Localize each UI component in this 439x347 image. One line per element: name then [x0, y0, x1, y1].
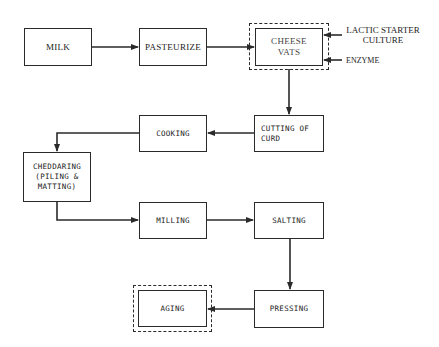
node-milling-label: MILLING	[156, 216, 190, 226]
node-milling: MILLING	[139, 202, 207, 239]
node-pressing-label: PRESSING	[270, 304, 309, 314]
arrow-cooking-to-cheddaring	[57, 133, 139, 151]
node-cheddaring: CHEDDARING (PILING & MATTING)	[23, 152, 91, 202]
node-aging: AGING	[138, 290, 207, 327]
node-pasteurize: PASTEURIZE	[139, 28, 207, 66]
node-pasteurize-label: PASTEURIZE	[145, 42, 201, 53]
node-cutting-of-curd-label: CUTTING OF CURD	[261, 124, 317, 144]
node-cutting-of-curd: CUTTING OF CURD	[254, 115, 324, 152]
arrow-cheddaring-to-milling	[57, 202, 138, 220]
node-cooking-label: COOKING	[156, 129, 190, 139]
node-salting-label: SALTING	[272, 216, 306, 226]
node-aging-label: AGING	[160, 304, 184, 314]
node-cheddaring-label: CHEDDARING (PILING & MATTING)	[29, 162, 85, 192]
node-cheese-vats-label: CHEESE VATS	[269, 36, 309, 58]
node-milk: MILK	[24, 28, 92, 66]
node-cooking: COOKING	[139, 115, 207, 152]
node-salting: SALTING	[254, 202, 324, 239]
node-cheese-vats: CHEESE VATS	[255, 28, 323, 66]
node-pressing: PRESSING	[254, 290, 324, 328]
node-milk-label: MILK	[46, 42, 70, 53]
input-lactic-starter-culture: LACTIC STARTER CULTURE	[343, 25, 423, 45]
input-enzyme: ENZYME	[346, 56, 386, 66]
